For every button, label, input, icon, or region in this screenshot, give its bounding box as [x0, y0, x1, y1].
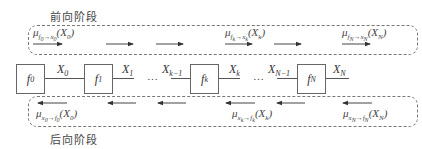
ellipsis-2: … — [253, 70, 265, 82]
factor-node-f1: f1 — [84, 64, 113, 94]
variable-XN: XN — [333, 62, 346, 78]
backward-stage-label: 后向阶段 — [50, 131, 98, 147]
factor-node-fN: fN — [297, 64, 326, 94]
ellipsis-1: … — [147, 70, 159, 82]
backward-message-x0-f0: μx0→f0(X0) — [36, 107, 77, 124]
variable-XN-1: XN−1 — [268, 62, 290, 78]
variable-Xk: Xk — [229, 62, 240, 78]
variable-Xk-1: Xk−1 — [162, 62, 182, 78]
factor-node-f0: f0 — [16, 64, 45, 94]
backward-message-xN-fN: μxN→fN(XN) — [343, 107, 387, 124]
factor-node-fk: fk — [190, 64, 219, 94]
backward-message-xk-fk: μxk→fk(Xk) — [232, 107, 272, 124]
variable-X0: X0 — [57, 62, 68, 78]
variable-X1: X1 — [122, 62, 133, 78]
